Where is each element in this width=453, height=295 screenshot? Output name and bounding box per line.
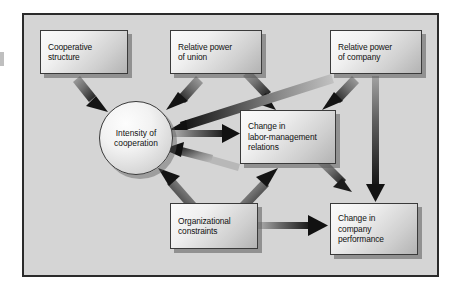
node-cooperative-structure-line-1: Cooperative: [48, 42, 127, 52]
node-organizational-constraints-line-1: Organizational: [178, 216, 257, 226]
node-relative-power-company[interactable]: Relative power of company: [330, 30, 422, 74]
node-intensity-of-cooperation[interactable]: Intensity of cooperation: [99, 101, 173, 175]
node-change-company-performance[interactable]: Change in company performance: [330, 203, 418, 255]
node-relative-power-union[interactable]: Relative power of union: [170, 30, 262, 74]
edge-constraints-to-performance: [258, 215, 328, 236]
node-relative-power-company-line-2: of company: [338, 52, 421, 62]
node-change-labor-management-relations-line-3: relations: [248, 142, 335, 152]
figure-page: Cooperative structure Relative power of …: [0, 0, 453, 295]
node-change-labor-management-relations-line-1: Change in: [248, 121, 335, 131]
node-change-company-performance-line-2: company: [338, 224, 417, 234]
edge-company-to-performance: [366, 76, 385, 202]
node-cooperative-structure[interactable]: Cooperative structure: [40, 30, 128, 74]
node-intensity-of-cooperation-line-2: cooperation: [114, 138, 158, 148]
node-change-labor-management-relations-line-2: labor-management: [248, 132, 335, 142]
edge-cooperative-structure-to-intensity: [73, 76, 108, 112]
node-organizational-constraints-line-2: constraints: [178, 226, 257, 236]
node-change-company-performance-line-3: performance: [338, 234, 417, 244]
edge-union-to-intensity: [166, 76, 203, 110]
node-relative-power-union-line-2: of union: [178, 52, 261, 62]
node-organizational-constraints[interactable]: Organizational constraints: [170, 203, 258, 249]
node-change-company-performance-line-1: Change in: [338, 213, 417, 223]
node-change-labor-management-relations[interactable]: Change in labor-management relations: [240, 110, 336, 164]
node-intensity-of-cooperation-line-1: Intensity of: [116, 128, 157, 138]
node-cooperative-structure-line-2: structure: [48, 52, 127, 62]
node-relative-power-union-line-1: Relative power: [178, 42, 261, 52]
node-relative-power-company-line-1: Relative power: [338, 42, 421, 52]
edge-relations-to-intensity: [163, 142, 240, 171]
